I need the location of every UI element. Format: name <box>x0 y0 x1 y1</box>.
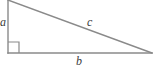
label-leg-a: a <box>0 16 6 28</box>
right-triangle-figure: a b c <box>0 0 156 70</box>
label-leg-b: b <box>76 55 82 67</box>
right-angle-marker-icon <box>8 42 19 53</box>
hypotenuse-line <box>8 0 152 53</box>
label-hypotenuse-c: c <box>87 16 92 28</box>
